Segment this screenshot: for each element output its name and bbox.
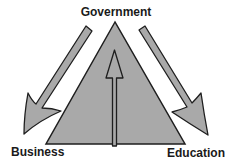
node-label-education: Education xyxy=(167,147,225,159)
triangle-diagram xyxy=(0,0,232,165)
node-label-business: Business xyxy=(11,146,64,158)
node-label-government: Government xyxy=(0,6,232,18)
